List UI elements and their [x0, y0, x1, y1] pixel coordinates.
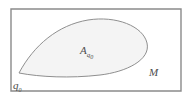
region-label-subscript-number: 0 — [90, 54, 93, 60]
manifold-label-base: M — [148, 66, 159, 78]
figure-canvas: Aq0 q0 M — [0, 0, 192, 100]
cusp-label-subscript-number: 0 — [19, 87, 22, 93]
manifold-label: M — [148, 66, 159, 78]
figure-container: Aq0 q0 M — [0, 0, 192, 100]
